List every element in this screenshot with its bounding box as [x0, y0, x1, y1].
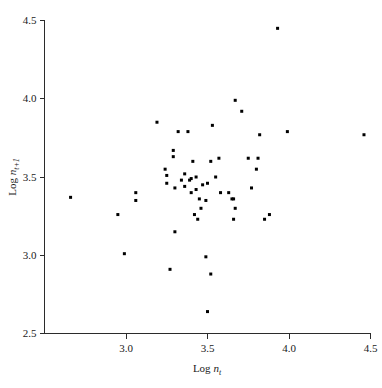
y-tick-label: 3.0	[23, 249, 37, 261]
data-point	[209, 273, 212, 276]
data-point	[204, 255, 207, 258]
data-point	[134, 199, 137, 202]
data-point	[250, 186, 253, 189]
data-point	[180, 179, 183, 182]
x-tick-label: 3.0	[119, 342, 133, 354]
data-point	[123, 252, 126, 255]
data-point	[206, 310, 209, 313]
data-point	[165, 182, 168, 185]
data-points-layer	[69, 27, 365, 313]
data-point	[234, 207, 237, 210]
x-tick-label: 4.0	[282, 342, 296, 354]
data-point	[196, 218, 199, 221]
data-point	[165, 174, 168, 177]
data-point	[247, 157, 250, 160]
data-point	[177, 130, 180, 133]
x-axis-ticks: 3.03.54.04.5	[119, 334, 378, 354]
y-tick-label: 4.0	[23, 92, 37, 104]
data-point	[164, 168, 167, 171]
data-point	[191, 160, 194, 163]
y-tick-label: 3.5	[23, 171, 37, 183]
data-point	[173, 230, 176, 233]
x-axis-title-subscript: t	[219, 368, 222, 377]
y-axis-title: Log nt+1	[6, 158, 21, 196]
data-point	[362, 133, 365, 136]
data-point	[183, 172, 186, 175]
x-axis-title: Log nt	[193, 362, 222, 377]
y-axis-title-subscript: t+1	[12, 158, 21, 170]
data-point	[217, 157, 220, 160]
data-point	[195, 188, 198, 191]
data-point	[276, 27, 279, 30]
x-axis-title-prefix: Log	[193, 362, 213, 374]
data-point	[183, 185, 186, 188]
data-point	[190, 191, 193, 194]
data-point	[195, 176, 198, 179]
data-point	[190, 177, 193, 180]
data-point	[227, 191, 230, 194]
y-tick-label: 4.5	[23, 14, 37, 26]
data-point	[232, 197, 235, 200]
data-point	[198, 197, 201, 200]
data-point	[268, 213, 271, 216]
data-point	[258, 133, 261, 136]
data-point	[204, 199, 207, 202]
data-point	[116, 213, 119, 216]
data-point	[69, 196, 72, 199]
data-point	[257, 157, 260, 160]
y-axis-ticks: 2.53.03.54.04.5	[23, 14, 45, 339]
data-point	[255, 168, 258, 171]
x-tick-label: 3.5	[201, 342, 215, 354]
data-point	[240, 110, 243, 113]
data-point	[206, 182, 209, 185]
data-point	[199, 207, 202, 210]
data-point	[201, 183, 204, 186]
data-point	[172, 155, 175, 158]
y-tick-label: 2.5	[23, 327, 37, 339]
scatter-plot-figure: 2.53.03.54.04.5 3.03.54.04.5 Log nt Log …	[0, 0, 382, 388]
x-tick-label: 4.5	[364, 342, 378, 354]
y-axis-title-prefix: Log	[6, 175, 18, 195]
data-point	[219, 191, 222, 194]
data-point	[286, 130, 289, 133]
data-point	[155, 121, 158, 124]
data-point	[234, 99, 237, 102]
data-point	[193, 213, 196, 216]
plot-canvas: 2.53.03.54.04.5 3.03.54.04.5 Log nt Log …	[0, 0, 382, 388]
data-point	[186, 130, 189, 133]
data-point	[232, 218, 235, 221]
data-point	[134, 191, 137, 194]
data-point	[263, 218, 266, 221]
data-point	[169, 268, 172, 271]
data-point	[209, 160, 212, 163]
data-point	[211, 124, 214, 127]
data-point	[173, 186, 176, 189]
data-point	[172, 149, 175, 152]
data-point	[214, 176, 217, 179]
